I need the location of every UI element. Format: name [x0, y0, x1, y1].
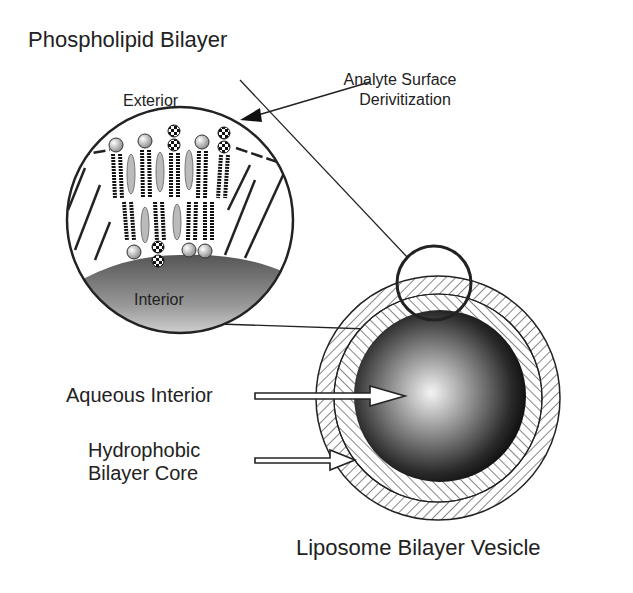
hydrophobic-label-line2: Bilayer Core: [88, 462, 198, 484]
interior-label: Interior: [134, 291, 184, 308]
liposome-vesicle: [316, 246, 560, 520]
vesicle-caption: Liposome Bilayer Vesicle: [296, 535, 541, 560]
analyte-arrow: [240, 82, 370, 122]
bilayer-inset: Exterior Interior: [50, 92, 300, 340]
analyte-label-line2: Derivitization: [359, 91, 451, 108]
liposome-diagram: Phospholipid Bilayer: [0, 0, 633, 593]
aqueous-interior-label: Aqueous Interior: [66, 384, 213, 406]
hydrophobic-label-line1: Hydrophobic: [88, 439, 200, 461]
inset-title: Phospholipid Bilayer: [28, 27, 227, 52]
exterior-label: Exterior: [123, 92, 179, 109]
